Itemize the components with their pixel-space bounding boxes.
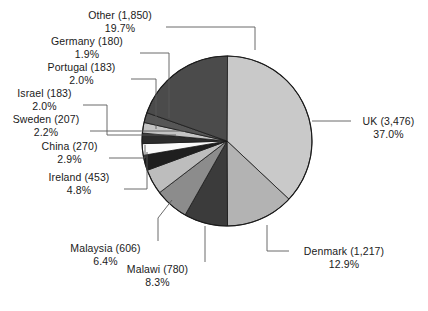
slice-label-sweden-pct: 2.2% (2, 126, 90, 139)
slice-label-china-name: China (270) (30, 140, 109, 153)
pie-slice-group (142, 56, 312, 226)
slice-label-sweden: Sweden (207) 2.2% (2, 113, 90, 138)
slice-label-portugal: Portugal (183) 2.0% (32, 61, 131, 86)
slice-label-ireland-pct: 4.8% (34, 184, 124, 197)
slice-label-israel: Israel (183) 2.0% (6, 87, 83, 112)
slice-label-china: China (270) 2.9% (30, 140, 109, 165)
slice-label-other: Other (1,850) 19.7% (72, 9, 168, 34)
slice-label-sweden-name: Sweden (207) (2, 113, 90, 126)
slice-label-other-name: Other (1,850) (72, 9, 168, 22)
slice-label-ireland-name: Ireland (453) (34, 171, 124, 184)
slice-label-germany: Germany (180) 1.9% (34, 35, 140, 60)
slice-label-germany-pct: 1.9% (34, 48, 140, 61)
leader-line-other (166, 27, 255, 50)
slice-label-denmark-name: Denmark (1,217) (290, 245, 398, 258)
slice-label-israel-name: Israel (183) (6, 87, 83, 100)
slice-label-malaysia-name: Malaysia (606) (53, 242, 158, 255)
slice-label-germany-name: Germany (180) (34, 35, 140, 48)
slice-label-china-pct: 2.9% (30, 153, 109, 166)
slice-label-portugal-name: Portugal (183) (32, 61, 131, 74)
slice-label-uk-name: UK (3,476) (352, 115, 425, 128)
slice-label-denmark-pct: 12.9% (290, 258, 398, 271)
slice-label-malawi: Malawi (780) 8.3% (111, 263, 204, 288)
slice-label-uk-pct: 37.0% (352, 128, 425, 141)
slice-label-malawi-name: Malawi (780) (111, 263, 204, 276)
slice-label-malawi-pct: 8.3% (111, 276, 204, 289)
slice-label-denmark: Denmark (1,217) 12.9% (290, 245, 398, 270)
leader-line-denmark (267, 225, 289, 251)
slice-label-israel-pct: 2.0% (6, 100, 83, 113)
leader-line-malaysia (158, 200, 172, 241)
slice-label-ireland: Ireland (453) 4.8% (34, 171, 124, 196)
slice-label-portugal-pct: 2.0% (32, 74, 131, 87)
leader-line-china (109, 145, 145, 158)
slice-label-other-pct: 19.7% (72, 22, 168, 35)
slice-label-uk: UK (3,476) 37.0% (352, 115, 425, 140)
pie-chart: Other (1,850) 19.7% Germany (180) 1.9% P… (0, 0, 428, 311)
